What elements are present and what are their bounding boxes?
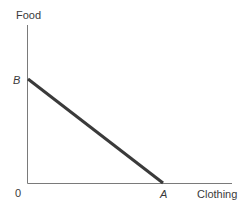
x-axis-label: Clothing <box>197 188 237 200</box>
origin-label: 0 <box>15 187 21 199</box>
point-a-label: A <box>160 188 167 200</box>
budget-line-chart <box>0 0 247 209</box>
budget-line <box>28 79 163 183</box>
y-axis-label: Food <box>16 9 41 21</box>
point-b-label: B <box>13 74 20 86</box>
